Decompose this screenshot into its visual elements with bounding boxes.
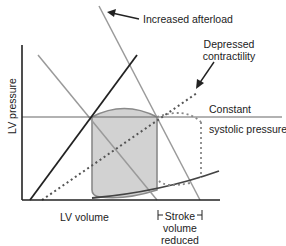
arrowhead-icon	[196, 79, 204, 89]
label-reduced: reduced	[155, 234, 205, 246]
arrow-increased-afterload	[112, 13, 139, 19]
label-increased-afterload: Increased afterload	[143, 13, 233, 25]
label-constant: Constant	[209, 103, 251, 115]
label-volume: volume	[155, 222, 205, 234]
label-depressed-contractility-1: Depressed	[190, 38, 268, 50]
y-axis-label: LV pressure	[6, 76, 18, 136]
arrowhead-icon	[107, 9, 116, 17]
label-stroke: Stroke	[160, 210, 200, 222]
label-depressed-contractility-2: contractility	[190, 50, 268, 62]
x-axis-label: LV volume	[60, 211, 109, 223]
label-systolic-pressure: systolic pressure	[209, 123, 286, 135]
arrow-depressed-contractility	[199, 62, 214, 84]
pv-loop-normal	[92, 109, 157, 198]
